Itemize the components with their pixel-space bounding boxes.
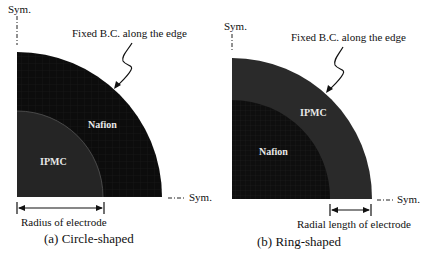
dimension-label: Radius of electrode [21,217,107,228]
inner-region-label: Nafion [259,147,288,157]
sym-label-right: Sym. [189,192,212,203]
arrowhead-icon [326,85,333,93]
caption-b: (b) Ring-shaped [257,235,341,248]
sym-label-top: Sym. [8,4,31,15]
panel-a-geometry [17,16,186,214]
panel-b-geometry [232,34,395,216]
annotation-label: Fixed B.C. along the edge [291,32,406,43]
inner-region-label: IPMC [40,157,67,167]
outer-region-label: IPMC [300,108,327,118]
sym-label-top: Sym. [224,21,247,32]
dimension-label: Radial length of electrode [297,219,411,230]
caption-a: (a) Circle-shaped [44,232,134,245]
sym-label-right: Sym. [397,194,420,205]
arrowhead-icon [114,81,121,89]
annotation-label: Fixed B.C. along the edge [72,28,187,39]
squiggle-arrow [117,43,132,86]
outer-region-label: Nafion [88,120,117,130]
figure: Sym. Fixed B.C. along the edge Nafion IP… [0,0,431,262]
squiggle-arrow [329,47,344,90]
